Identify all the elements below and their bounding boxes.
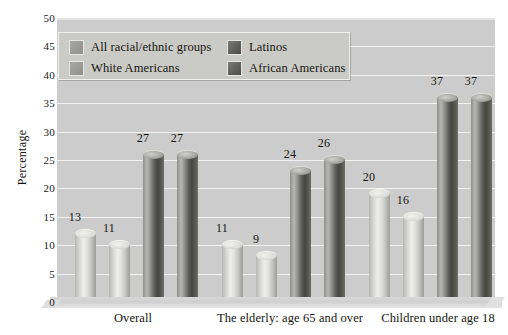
bar-overall-all-groups [75,229,96,303]
bar-body [222,244,243,303]
bar-body [324,159,345,303]
chart-floor [50,297,502,308]
bar-body [109,244,130,303]
bar-cap [256,251,277,260]
bar-children-white [403,212,424,303]
bar-value-elderly-latinos: 24 [275,147,305,162]
x-label-overall: Overall [58,311,208,326]
bar-overall-white [109,240,130,303]
legend-entry-label: African Americans [249,61,345,76]
y-tick-5: 5 [3,269,55,280]
bar-value-overall-white: 11 [94,221,124,236]
gridline-20 [57,188,495,189]
gridline-15 [57,217,495,218]
bar-overall-latinos [143,150,164,303]
gridline-30 [57,132,495,133]
bar-cap [437,93,458,102]
bar-value-overall-african-americans: 27 [162,131,192,146]
y-tick-0: 0 [3,297,55,308]
y-tick-40: 40 [3,70,55,81]
bar-cap [471,93,492,102]
bar-body [369,193,390,303]
x-label-children: Children under age 18 [368,311,508,326]
bar-body [75,233,96,303]
bar-value-children-all-groups: 20 [354,170,384,185]
bar-body [471,97,492,303]
bar-elderly-all-groups [222,240,243,303]
bar-body [143,154,164,303]
bar-cap [143,150,164,159]
bar-elderly-white [256,251,277,303]
bar-value-overall-all-groups: 13 [60,210,90,225]
bar-value-elderly-white: 9 [241,232,271,247]
bar-children-all-groups [369,189,390,303]
bar-value-children-african-americans: 37 [456,74,486,89]
legend-entry-all-racial-ethnic-groups: All racial/ethnic groups [69,37,211,57]
legend-swatch-icon [69,40,84,55]
bar-cap [369,189,390,198]
legend-entry-african-americans: African Americans [227,58,345,78]
bar-cap [324,155,345,164]
y-tick-10: 10 [3,240,55,251]
bar-children-latinos [437,93,458,303]
bar-cap [290,166,311,175]
y-axis-title: Percentage [15,103,30,213]
bar-body [256,255,277,303]
bar-children-african-americans [471,93,492,303]
y-tick-50: 50 [3,13,55,24]
legend-entry-label: Latinos [249,40,287,55]
bar-body [290,170,311,303]
gridline-50 [57,18,495,19]
bar-overall-african-americans [177,150,198,303]
bar-elderly-latinos [290,166,311,303]
gridline-35 [57,103,495,104]
bar-value-children-white: 16 [388,193,418,208]
legend-entry-latinos: Latinos [227,37,287,57]
legend-swatch-icon [227,40,242,55]
bar-value-elderly-all-groups: 11 [207,221,237,236]
bar-cap [403,212,424,221]
bar-cap [177,150,198,159]
legend-entry-white-americans: White Americans [69,58,180,78]
bar-cap [109,240,130,249]
chart-legend: All racial/ethnic groups Latinos White A… [58,32,350,80]
bar-body [403,216,424,303]
legend-entry-label: White Americans [91,61,180,76]
bar-elderly-african-americans [324,155,345,303]
legend-swatch-icon [227,61,242,76]
y-tick-15: 15 [3,212,55,223]
bar-body [177,154,198,303]
bar-chart: 13 11 27 27 11 9 24 26 20 16 37 37 50 45… [0,0,508,335]
bar-cap [222,240,243,249]
legend-entry-label: All racial/ethnic groups [91,40,211,55]
bar-value-overall-latinos: 27 [128,131,158,146]
x-label-elderly: The elderly: age 65 and over [200,311,380,326]
y-tick-45: 45 [3,41,55,52]
bar-value-elderly-african-americans: 26 [309,136,339,151]
bar-value-children-latinos: 37 [422,74,452,89]
legend-swatch-icon [69,61,84,76]
bar-cap [75,229,96,238]
bar-body [437,97,458,303]
